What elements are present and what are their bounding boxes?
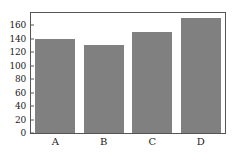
y-tick-label: 20 <box>15 115 26 124</box>
y-tick-label: 80 <box>15 75 26 84</box>
x-tick-label: B <box>80 136 129 156</box>
bar-chart: 020406080100120140160 ABCD <box>0 0 234 160</box>
x-tick-label: C <box>128 136 177 156</box>
bar[interactable] <box>132 32 172 133</box>
bar-slot <box>80 13 129 133</box>
y-tick-label: 120 <box>9 48 26 57</box>
x-tick-label: D <box>177 136 226 156</box>
y-tick-label: 140 <box>9 34 26 43</box>
bar[interactable] <box>84 45 124 133</box>
bar-slot <box>128 13 177 133</box>
x-axis: ABCD <box>31 136 225 156</box>
bar[interactable] <box>35 39 75 133</box>
bar-slot <box>177 13 226 133</box>
y-axis: 020406080100120140160 <box>0 12 30 134</box>
y-tick-label: 0 <box>20 129 26 138</box>
y-tick-label: 40 <box>15 102 26 111</box>
y-tick-label: 60 <box>15 88 26 97</box>
x-tick-label: A <box>31 136 80 156</box>
bar-slot <box>31 13 80 133</box>
bar[interactable] <box>181 18 221 133</box>
y-tick-label: 160 <box>9 21 26 30</box>
bars-container <box>31 13 225 133</box>
y-tick-label: 100 <box>9 61 26 70</box>
